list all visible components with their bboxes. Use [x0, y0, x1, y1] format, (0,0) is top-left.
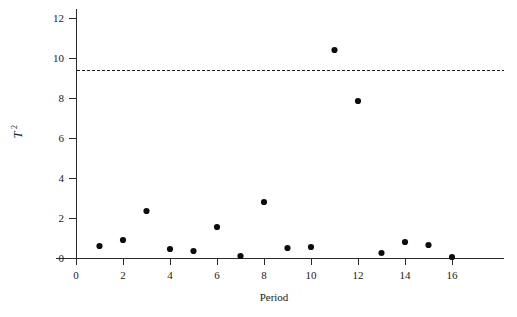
y-tick-labels-group: 024681012: [53, 12, 65, 264]
x-tick-label: 12: [353, 269, 364, 281]
data-point: [308, 244, 314, 250]
data-point: [261, 199, 267, 205]
x-tick-label: 10: [306, 269, 318, 281]
x-tick-label: 14: [400, 269, 412, 281]
data-point: [284, 245, 290, 251]
y-tick-label: 6: [59, 132, 65, 144]
data-point: [190, 248, 196, 254]
x-tick-label: 4: [167, 269, 173, 281]
x-tick-label: 16: [447, 269, 459, 281]
data-points-group: [96, 47, 455, 260]
y-axis-title: T 2: [10, 125, 25, 138]
y-axis-title-base: T: [11, 130, 25, 138]
chart-canvas: 0246810121416 024681012 Period T 2: [0, 0, 517, 317]
x-tick-label: 0: [73, 269, 79, 281]
axes-group: [56, 9, 504, 265]
y-tick-label: 0: [59, 252, 65, 264]
data-point: [449, 254, 455, 260]
x-tick-labels-group: 0246810121416: [73, 269, 458, 281]
x-tick-label: 6: [214, 269, 220, 281]
x-axis-title: Period: [260, 291, 289, 303]
data-point: [425, 242, 431, 248]
data-point: [96, 243, 102, 249]
plot-area: 0246810121416 024681012 Period T 2: [0, 0, 517, 317]
data-point: [331, 47, 337, 53]
data-point: [167, 246, 173, 252]
data-point: [378, 250, 384, 256]
x-tick-label: 8: [261, 269, 267, 281]
y-tick-label: 4: [59, 172, 65, 184]
data-point: [237, 253, 243, 259]
axis-titles-group: Period T 2: [10, 125, 289, 303]
y-tick-label: 2: [59, 212, 65, 224]
y-tick-label: 10: [53, 52, 65, 64]
data-point: [355, 98, 361, 104]
data-point: [214, 224, 220, 230]
x-tick-label: 2: [120, 269, 126, 281]
y-tick-label: 8: [59, 92, 65, 104]
y-axis-title-exponent: 2: [10, 125, 19, 129]
data-point: [120, 237, 126, 243]
data-point: [143, 208, 149, 214]
data-point: [402, 239, 408, 245]
y-tick-label: 12: [53, 12, 64, 24]
t-squared-control-chart: 0246810121416 024681012 Period T 2: [0, 0, 517, 317]
